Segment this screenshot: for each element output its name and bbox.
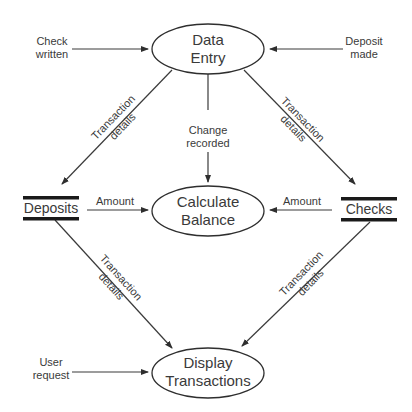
process-calculate-balance: Calculate Balance — [152, 186, 264, 236]
input-user-request: User request — [33, 356, 70, 381]
label-entry-to-deposits: Transaction details — [89, 92, 147, 150]
store-checks: Checks — [341, 197, 397, 222]
label-checks-amount: Amount — [283, 195, 321, 207]
process-data-entry: Data Entry — [152, 24, 264, 74]
svg-text:Entry: Entry — [190, 49, 226, 66]
svg-text:Calculate: Calculate — [177, 193, 240, 210]
store-bar-top — [23, 196, 79, 200]
svg-text:Display: Display — [183, 354, 233, 371]
input-check-written: Check written — [35, 35, 68, 60]
label-entry-to-checks: Transaction details — [270, 94, 328, 152]
label-deposits-to-display: Transaction details — [88, 252, 145, 311]
svg-text:Check: Check — [36, 35, 68, 47]
svg-text:Balance: Balance — [181, 211, 235, 228]
svg-text:written: written — [35, 48, 68, 60]
store-bar-bottom — [23, 217, 79, 221]
store-bar-bottom — [341, 218, 397, 222]
svg-text:request: request — [33, 369, 70, 381]
input-deposit-made: Deposit made — [345, 35, 382, 60]
svg-text:Deposits: Deposits — [24, 200, 78, 216]
svg-text:User: User — [39, 356, 63, 368]
label-deposits-amount: Amount — [96, 195, 134, 207]
svg-text:Data: Data — [192, 31, 224, 48]
store-bar-top — [341, 197, 397, 201]
svg-text:Change: Change — [189, 124, 228, 136]
data-flow-diagram: Data Entry Calculate Balance Display Tra… — [0, 0, 412, 412]
store-deposits: Deposits — [23, 196, 79, 221]
svg-text:Deposit: Deposit — [345, 35, 382, 47]
svg-text:made: made — [350, 48, 378, 60]
label-checks-to-display: Transaction details — [277, 248, 335, 306]
process-display-transactions: Display Transactions — [152, 348, 264, 398]
svg-text:Checks: Checks — [346, 201, 393, 217]
label-change-recorded: Change recorded — [186, 124, 229, 149]
svg-text:recorded: recorded — [186, 137, 229, 149]
svg-text:Transactions: Transactions — [165, 372, 250, 389]
